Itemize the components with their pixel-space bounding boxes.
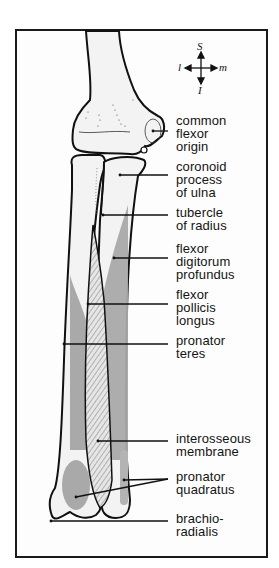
forearm-bones-illustration <box>0 0 279 568</box>
orientation-compass-icon <box>185 52 217 84</box>
label-brachioradialis: brachio- radialis <box>176 512 224 538</box>
label-common-flexor-origin: common flexor origin <box>176 114 226 153</box>
compass-superior: S <box>197 40 203 52</box>
label-pronator-quadratus: pronator quadratus <box>176 470 235 496</box>
label-coronoid-process: coronoid process of ulna <box>176 160 227 199</box>
label-flexor-pollicis-longus: flexor pollicis longus <box>176 288 216 327</box>
compass-inferior: I <box>198 84 202 96</box>
compass-medial: m <box>219 61 227 73</box>
humerus <box>73 31 165 154</box>
pronator-quadratus-ulna <box>120 450 128 505</box>
label-tubercle-of-radius: tubercle of radius <box>176 206 227 232</box>
label-pronator-teres: pronator teres <box>176 334 225 360</box>
label-interosseous-membrane: interosseous membrane <box>176 432 251 458</box>
label-flexor-digitorum-profundus: flexor digitorum profundus <box>176 242 235 281</box>
pronator-quadratus-radius <box>62 460 90 510</box>
compass-lateral: l <box>178 61 181 73</box>
